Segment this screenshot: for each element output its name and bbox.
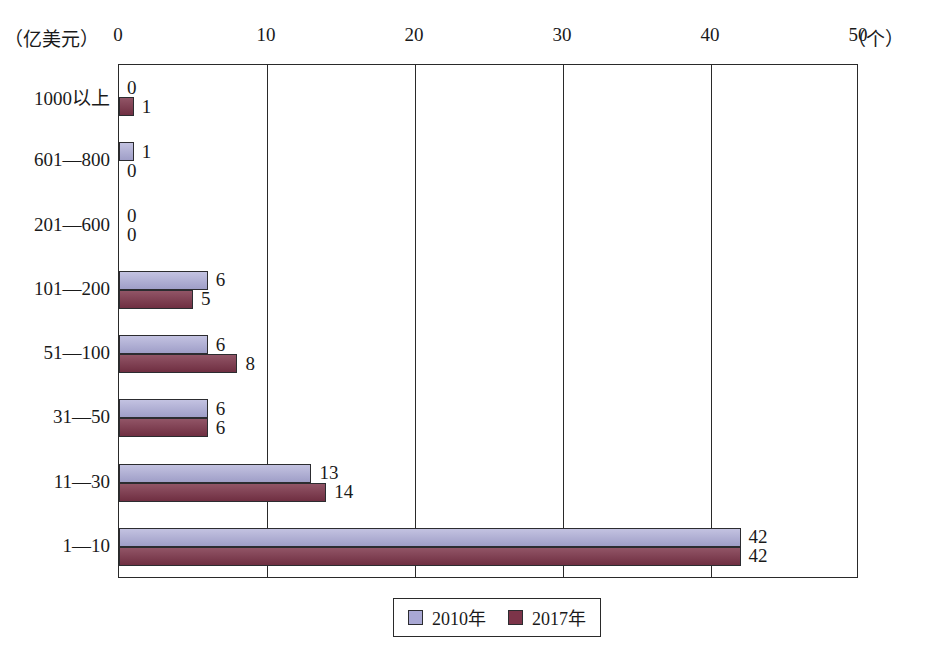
- value-label: 5: [201, 288, 211, 310]
- chart-legend: 2010年2017年: [393, 598, 601, 637]
- y-category-label: 31—50: [53, 406, 110, 428]
- bar-2010年-601—800: [119, 142, 134, 161]
- y-category-label: 1—10: [63, 535, 111, 557]
- bar-2017年-101—200: [119, 290, 193, 309]
- value-label: 8: [245, 353, 255, 375]
- gridline-20: [415, 65, 416, 577]
- y-category-label: 601—800: [34, 149, 110, 171]
- y-category-label: 1000以上: [34, 83, 110, 110]
- x-axis-tick-0: 0: [113, 24, 123, 46]
- y-category-label: 51—100: [44, 342, 111, 364]
- legend-item-2010年: 2010年: [408, 604, 486, 630]
- x-axis-tick-10: 10: [257, 24, 276, 46]
- y-category-label: 201—600: [34, 214, 110, 236]
- legend-swatch-icon: [508, 610, 523, 625]
- plot-area: 01100065686613144242: [118, 64, 858, 578]
- bar-2017年-1000以上: [119, 97, 134, 116]
- bar-2010年-51—100: [119, 335, 208, 354]
- bar-2017年-31—50: [119, 418, 208, 437]
- bar-2010年-101—200: [119, 271, 208, 290]
- legend-item-2017年: 2017年: [508, 604, 586, 630]
- bar-2017年-11—30: [119, 483, 326, 502]
- value-label: 0: [127, 77, 137, 99]
- x-axis-tick-30: 30: [553, 24, 572, 46]
- bar-2010年-11—30: [119, 464, 311, 483]
- y-category-label: 101—200: [34, 278, 110, 300]
- bar-2017年-1—10: [119, 547, 741, 566]
- value-label: 0: [127, 160, 137, 182]
- legend-label: 2010年: [432, 604, 486, 630]
- legend-swatch-icon: [408, 610, 423, 625]
- value-label: 14: [334, 481, 353, 503]
- value-label: 6: [216, 334, 226, 356]
- y-axis-category-labels: 1000以上601—800201—600101—20051—10031—5011…: [0, 64, 110, 578]
- bar-2010年-1—10: [119, 528, 741, 547]
- x-axis-tick-50: 50: [849, 24, 868, 46]
- gridline-40: [711, 65, 712, 577]
- y-category-label: 11—30: [54, 471, 110, 493]
- value-label: 6: [216, 417, 226, 439]
- bar-2017年-51—100: [119, 354, 237, 373]
- value-label: 1: [142, 141, 152, 163]
- legend-label: 2017年: [532, 604, 586, 630]
- value-label: 6: [216, 269, 226, 291]
- x-axis-tick-20: 20: [405, 24, 424, 46]
- x-axis-tick-40: 40: [701, 24, 720, 46]
- bar-2010年-31—50: [119, 399, 208, 418]
- value-label: 42: [749, 545, 768, 567]
- y-axis-unit-label: （亿美元）: [4, 24, 99, 51]
- value-label: 0: [127, 224, 137, 246]
- gridline-30: [563, 65, 564, 577]
- bar-chart: （亿美元） （个） 01020304050 1000以上601—800201—6…: [0, 0, 936, 659]
- value-label: 1: [142, 96, 152, 118]
